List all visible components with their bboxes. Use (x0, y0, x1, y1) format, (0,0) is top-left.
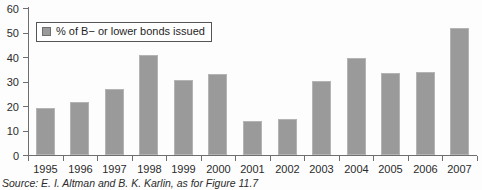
x-tick-8 (304, 156, 305, 161)
x-label-2001: 2001 (235, 164, 270, 175)
y-tick-label-60: 60 (7, 3, 19, 14)
x-tick-9 (339, 156, 340, 161)
x-tick-0 (28, 156, 29, 161)
y-tick-label-40: 40 (7, 52, 19, 63)
bar-2003 (312, 81, 331, 155)
x-label-2000: 2000 (201, 164, 236, 175)
x-label-2003: 2003 (304, 164, 339, 175)
x-tick-6 (235, 156, 236, 161)
source-text: E. I. Altman and B. K. Karlin, as for Fi… (41, 177, 258, 189)
x-tick-4 (166, 156, 167, 161)
y-tick-label-50: 50 (7, 28, 19, 39)
bar-1998 (139, 55, 158, 155)
x-label-1999: 1999 (166, 164, 201, 175)
bar-2007 (450, 28, 469, 155)
y-tick-40: 40 (23, 57, 28, 58)
bar-1996 (70, 102, 89, 155)
bar-2001 (243, 121, 262, 155)
y-tick-50: 50 (23, 33, 28, 34)
bar-1995 (36, 108, 55, 155)
x-label-1998: 1998 (132, 164, 167, 175)
y-axis-line (28, 7, 29, 156)
x-label-2002: 2002 (270, 164, 305, 175)
y-tick-60: 60 (23, 8, 28, 9)
x-tick-13 (477, 156, 478, 161)
x-label-2007: 2007 (442, 164, 477, 175)
y-tick-label-0: 0 (13, 150, 19, 161)
bar-1997 (105, 89, 124, 155)
x-tick-10 (373, 156, 374, 161)
x-tick-1 (63, 156, 64, 161)
x-tick-12 (442, 156, 443, 161)
x-tick-3 (132, 156, 133, 161)
y-tick-20: 20 (23, 106, 28, 107)
x-tick-2 (97, 156, 98, 161)
bar-2000 (208, 74, 227, 155)
x-tick-7 (270, 156, 271, 161)
x-label-1996: 1996 (63, 164, 98, 175)
y-tick-label-10: 10 (7, 126, 19, 137)
y-tick-30: 30 (23, 82, 28, 83)
y-tick-label-30: 30 (7, 77, 19, 88)
x-tick-11 (408, 156, 409, 161)
source-prefix: Source: (2, 177, 38, 189)
bar-2006 (416, 72, 435, 155)
x-label-1995: 1995 (28, 164, 63, 175)
bar-2002 (278, 119, 297, 155)
source-caption: Source: E. I. Altman and B. K. Karlin, a… (2, 178, 258, 189)
x-label-2004: 2004 (339, 164, 374, 175)
x-tick-5 (201, 156, 202, 161)
x-label-2005: 2005 (373, 164, 408, 175)
y-tick-label-20: 20 (7, 101, 19, 112)
x-label-1997: 1997 (97, 164, 132, 175)
bar-2005 (381, 73, 400, 155)
legend-swatch-icon (42, 27, 51, 36)
x-axis-line (28, 155, 477, 156)
x-label-2006: 2006 (408, 164, 443, 175)
figure-bar-chart: 6050403020100 19951996199719981999200020… (0, 0, 482, 190)
chart-legend: % of B− or lower bonds issued (36, 22, 212, 42)
legend-label: % of B− or lower bonds issued (56, 26, 205, 37)
bar-2004 (347, 58, 366, 155)
y-tick-10: 10 (23, 131, 28, 132)
bar-1999 (174, 80, 193, 155)
